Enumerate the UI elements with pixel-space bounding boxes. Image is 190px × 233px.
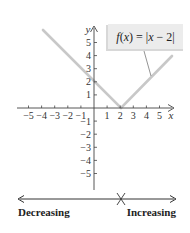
x-tick-label: 4 <box>144 110 149 121</box>
decreasing-label: Decreasing <box>18 206 70 218</box>
y-tick-label: 4 <box>86 50 91 61</box>
x-tick-label: −5 <box>23 110 34 121</box>
y-tick-label: 1 <box>86 89 91 100</box>
y-axis: 5 4 3 2 1 −1 −2 −3 −4 −5 y <box>80 23 97 190</box>
increasing-label: Increasing <box>127 206 177 218</box>
x-axis-label: x <box>168 109 174 121</box>
y-tick-label: 2 <box>86 76 91 87</box>
absolute-value-diagram: −5 −4 −3 −2 −1 1 2 3 4 5 x <box>0 0 190 233</box>
function-label-box: f(x) = |x − 2| <box>106 24 183 51</box>
x-tick-label: 1 <box>105 110 110 121</box>
label-leader-line <box>144 51 151 76</box>
y-tick-label: −4 <box>80 155 91 166</box>
x-tick-label: −4 <box>36 110 47 121</box>
y-axis-label: y <box>85 23 91 35</box>
y-tick-label: 3 <box>86 63 91 74</box>
y-tick-label: −1 <box>80 116 91 127</box>
number-line <box>18 193 176 205</box>
x-tick-label: 2 <box>118 110 123 121</box>
function-label: f(x) = |x − 2| <box>116 30 174 44</box>
x-tick-label: −3 <box>49 110 60 121</box>
x-tick-label: 3 <box>131 110 136 121</box>
y-tick-label: −2 <box>80 129 91 140</box>
x-tick-label: 5 <box>157 110 162 121</box>
y-tick-label: 5 <box>86 37 91 48</box>
y-tick-label: −5 <box>80 168 91 179</box>
x-tick-label: −2 <box>62 110 73 121</box>
x-axis: −5 −4 −3 −2 −1 1 2 3 4 5 x <box>17 105 174 122</box>
y-tick-label: −3 <box>80 142 91 153</box>
